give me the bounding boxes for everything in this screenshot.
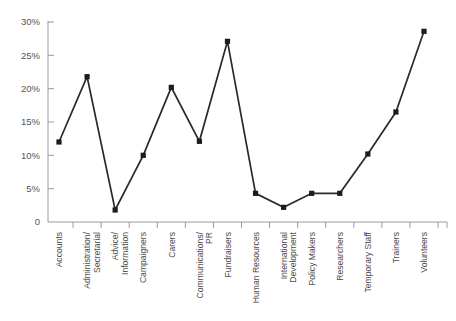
y-tick-label: 10%	[21, 150, 41, 161]
x-tick-label: Researchers	[335, 232, 345, 281]
x-tick-label-line: Development	[288, 231, 298, 282]
x-tick-label: Carers	[167, 232, 177, 258]
x-tick-label-line: PR	[204, 232, 214, 244]
x-tick-label: Administration/Secretarial	[82, 231, 102, 288]
chart-canvas: 05%10%15%20%25%30% AccountsAdministratio…	[0, 0, 456, 321]
y-axis: 05%10%15%20%25%30%	[21, 16, 54, 227]
data-point-marker	[421, 29, 426, 34]
data-point-marker	[56, 139, 61, 144]
y-tick-label: 20%	[21, 83, 41, 94]
x-tick-label-line: Administration/	[82, 231, 92, 288]
x-tick-label: Trainers	[391, 232, 401, 263]
data-point-marker	[281, 205, 286, 210]
data-point-marker	[393, 109, 398, 114]
x-tick-labels: AccountsAdministration/SecretarialAdvice…	[54, 231, 429, 303]
x-tick-label-line: Campaigners	[138, 232, 148, 283]
x-tick-label: InternationalDevelopment	[279, 231, 299, 282]
x-axis	[48, 222, 447, 228]
x-tick-label: Communications/PR	[195, 231, 215, 298]
x-tick-label-line: Trainers	[391, 232, 401, 263]
x-tick-label: Human Resources	[251, 232, 261, 303]
x-tick-label-line: Volunteers	[419, 232, 429, 273]
line-chart: 05%10%15%20%25%30% AccountsAdministratio…	[0, 0, 456, 321]
x-tick-label-line: Temporary Staff	[363, 231, 373, 292]
x-tick-label: Accounts	[54, 232, 64, 267]
x-tick-label-line: Policy Makers	[307, 232, 317, 285]
x-tick-label-line: Advice/	[110, 231, 120, 260]
x-tick-label: Advice/Information	[110, 231, 130, 275]
y-tick-label: 30%	[21, 16, 41, 27]
series-line	[59, 31, 424, 210]
data-series	[59, 31, 424, 210]
x-tick-label-line: Secretarial	[92, 232, 102, 273]
data-point-marker	[84, 74, 89, 79]
data-point-marker	[253, 191, 258, 196]
x-tick-label-line: Information	[120, 232, 130, 275]
x-tick-label: Fundraisers	[223, 232, 233, 277]
y-tick-label: 5%	[26, 183, 40, 194]
data-point-marker	[197, 139, 202, 144]
x-tick-label-line: Accounts	[54, 232, 64, 267]
x-tick-label: Campaigners	[138, 232, 148, 283]
x-tick-label-line: International	[279, 232, 289, 279]
x-tick-label-line: Fundraisers	[223, 232, 233, 277]
x-tick-label: Temporary Staff	[363, 231, 373, 292]
data-point-marker	[337, 191, 342, 196]
y-tick-label: 0	[35, 216, 40, 227]
data-point-marker	[309, 191, 314, 196]
data-point-marker	[365, 151, 370, 156]
x-tick-label-line: Communications/	[195, 231, 205, 298]
x-tick-label-line: Human Resources	[251, 232, 261, 303]
data-point-marker	[225, 39, 230, 44]
data-point-marker	[141, 153, 146, 158]
data-point-marker	[113, 207, 118, 212]
x-tick-label: Volunteers	[419, 232, 429, 273]
x-tick-label-line: Researchers	[335, 232, 345, 281]
data-point-marker	[169, 85, 174, 90]
x-tick-label-line: Carers	[167, 232, 177, 258]
y-tick-label: 15%	[21, 116, 41, 127]
x-tick-label: Policy Makers	[307, 232, 317, 285]
y-tick-label: 25%	[21, 50, 41, 61]
